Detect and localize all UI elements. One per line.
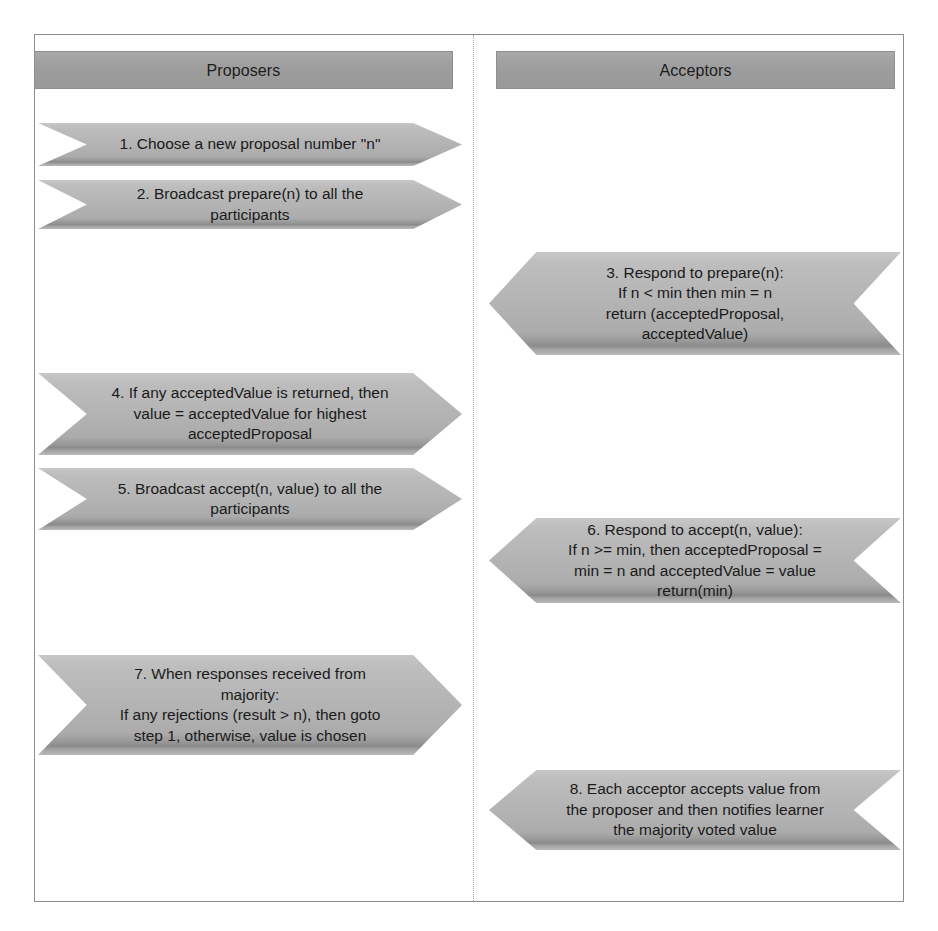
step-arrow-6: 6. Respond to accept(n, value): If n >= … [489,518,901,603]
step-arrow-5-label: 5. Broadcast accept(n, value) to all the… [84,479,416,520]
step-arrow-4: 4. If any acceptedValue is returned, the… [38,373,462,455]
step-arrow-5: 5. Broadcast accept(n, value) to all the… [38,468,462,530]
paxos-swimlane-diagram: Proposers Acceptors 1. Choose a new prop… [0,0,938,931]
step-arrow-3-label: 3. Respond to prepare(n): If n < min the… [535,263,855,345]
step-arrow-2-label: 2. Broadcast prepare(n) to all the parti… [84,184,416,225]
lane-header-proposers-label: Proposers [207,62,281,79]
lane-divider [473,35,474,901]
step-arrow-3: 3. Respond to prepare(n): If n < min the… [489,252,901,355]
step-arrow-4-label: 4. If any acceptedValue is returned, the… [84,383,416,445]
step-arrow-7: 7. When responses received from majority… [38,655,462,755]
step-arrow-7-label: 7. When responses received from majority… [84,664,416,746]
lane-header-acceptors: Acceptors [496,51,895,89]
step-arrow-8: 8. Each acceptor accepts value from the … [489,770,901,850]
step-arrow-6-label: 6. Respond to accept(n, value): If n >= … [535,520,855,602]
step-arrow-8-label: 8. Each acceptor accepts value from the … [535,779,855,841]
step-arrow-1-label: 1. Choose a new proposal number "n" [84,134,416,155]
step-arrow-1: 1. Choose a new proposal number "n" [38,123,462,166]
lane-header-proposers: Proposers [34,51,453,89]
lane-header-acceptors-label: Acceptors [659,62,731,79]
step-arrow-2: 2. Broadcast prepare(n) to all the parti… [38,180,462,229]
